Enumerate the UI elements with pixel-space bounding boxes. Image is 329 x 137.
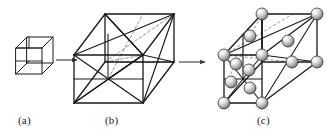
atom-sphere xyxy=(218,49,230,61)
atom-spheres xyxy=(218,8,323,109)
atom-sphere xyxy=(256,8,268,20)
panel-c-atom-structure xyxy=(218,8,323,109)
large-cube-face-diagonals xyxy=(74,14,174,103)
atom-sphere xyxy=(225,76,237,88)
figure-canvas xyxy=(0,0,329,137)
atom-sphere xyxy=(218,97,230,109)
atom-sphere xyxy=(243,64,255,76)
atom-sphere xyxy=(286,56,298,68)
atom-sphere xyxy=(244,30,256,42)
atom-sphere xyxy=(256,49,268,61)
atom-sphere xyxy=(230,58,242,70)
panel-label-a: (a) xyxy=(18,114,31,126)
atom-sphere xyxy=(311,8,323,20)
panel-a-small-cube xyxy=(16,37,53,74)
small-cube-internal-diagonals xyxy=(16,37,42,74)
atom-sphere xyxy=(311,56,323,68)
atom-sphere xyxy=(256,97,268,109)
panel-label-b: (b) xyxy=(105,114,118,126)
atom-sphere xyxy=(282,35,294,47)
crystal-structure-figure: (a) (b) (c) xyxy=(0,0,329,137)
panel-label-c: (c) xyxy=(257,114,270,126)
panel-b-large-cube xyxy=(74,14,174,103)
atom-sphere xyxy=(244,82,256,94)
